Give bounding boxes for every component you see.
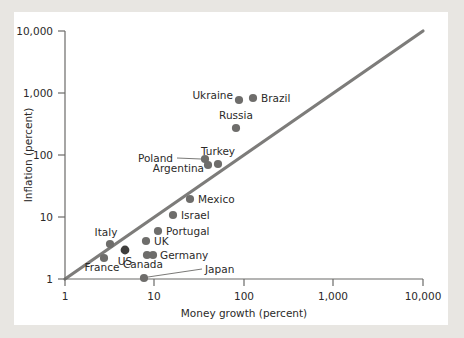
y-axis-ticks [58, 31, 65, 279]
point-label-portugal: Portugal [166, 225, 210, 237]
point-label-turkey: Turkey [200, 145, 235, 157]
data-point-argentina[interactable]: Argentina [153, 161, 212, 174]
y-tick-label-10000: 10,000 [16, 25, 53, 37]
point-label-us: US [118, 255, 133, 267]
japan-leader-line [148, 269, 202, 277]
x-axis-title: Money growth (percent) [181, 307, 307, 319]
point-label-russia: Russia [219, 109, 253, 121]
x-tick-label-10: 10 [147, 290, 160, 302]
figure-card: 10,000 1,000 100 10 1 1 10 100 1,000 10,… [14, 12, 448, 325]
point-label-uk: UK [154, 235, 170, 247]
marker-dot [249, 94, 257, 102]
data-point-mexico[interactable]: Mexico [186, 193, 235, 205]
data-point-france[interactable]: France [85, 254, 120, 273]
data-point-israel[interactable]: Israel [169, 209, 210, 221]
y-tick-label-1000: 1,000 [23, 87, 53, 99]
marker-dot [154, 227, 162, 235]
data-points-layer: Ukraine Brazil Russia Poland Turkey [85, 89, 291, 282]
y-tick-label-1: 1 [46, 273, 53, 285]
marker-dot [121, 246, 130, 255]
y-axis-title: Inflation (percent) [22, 108, 34, 203]
inflation-vs-money-growth-scatter-chart: 10,000 1,000 100 10 1 1 10 100 1,000 10,… [14, 12, 448, 325]
marker-dot [142, 237, 150, 245]
y-tick-label-100: 100 [33, 149, 53, 161]
x-axis-tick-labels: 1 10 100 1,000 10,000 [62, 290, 442, 302]
point-label-germany: Germany [160, 249, 208, 261]
point-label-france: France [85, 261, 120, 273]
x-tick-label-10000: 10,000 [405, 290, 442, 302]
x-tick-label-1000: 1,000 [318, 290, 348, 302]
data-point-uk[interactable]: UK [142, 235, 170, 247]
point-label-israel: Israel [181, 209, 210, 221]
y-tick-label-10: 10 [40, 211, 53, 223]
marker-dot [106, 240, 114, 248]
marker-dot [214, 160, 222, 168]
point-label-japan: Japan [204, 263, 234, 275]
marker-dot [232, 124, 240, 132]
marker-dot [140, 274, 148, 282]
point-label-mexico: Mexico [198, 193, 235, 205]
data-point-russia[interactable]: Russia [219, 109, 253, 132]
point-label-italy: Italy [95, 226, 118, 238]
data-point-us[interactable]: US [118, 246, 133, 267]
x-axis-ticks [65, 279, 423, 286]
forty-five-degree-reference-line [65, 31, 423, 279]
point-label-argentina: Argentina [153, 162, 204, 174]
marker-dot [186, 195, 194, 203]
x-tick-label-1: 1 [62, 290, 69, 302]
marker-dot [204, 161, 212, 169]
point-label-ukraine: Ukraine [192, 89, 233, 101]
data-point-italy[interactable]: Italy [95, 226, 118, 248]
data-point-brazil[interactable]: Brazil [249, 92, 290, 104]
point-label-brazil: Brazil [261, 92, 290, 104]
poland-leader-line [177, 158, 201, 159]
data-point-ukraine[interactable]: Ukraine [192, 89, 243, 104]
x-tick-label-100: 100 [234, 290, 254, 302]
marker-dot [169, 211, 177, 219]
marker-dot [235, 96, 243, 104]
